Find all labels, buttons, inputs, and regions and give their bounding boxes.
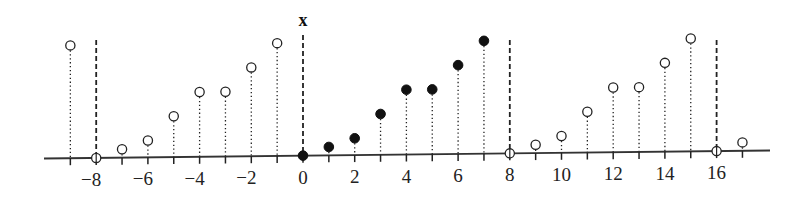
tick-label--4: −4 [184, 168, 205, 189]
tick-label-4: 4 [402, 166, 412, 187]
stem-plot: −8−6−4−20246810121416 x [0, 0, 810, 199]
stem-lines [70, 44, 742, 159]
tick-label-16: 16 [707, 162, 726, 183]
hollow-marker--1 [273, 39, 282, 48]
tick-label-12: 12 [604, 163, 623, 184]
tick-label--2: −2 [236, 167, 256, 188]
filled-marker-2 [350, 133, 360, 143]
hollow-marker-11 [583, 107, 592, 116]
filled-marker-3 [376, 109, 386, 119]
hollow-marker--3 [221, 87, 230, 96]
stem-markers [66, 34, 747, 163]
tick-label-14: 14 [655, 163, 675, 184]
tick-label-8: 8 [505, 164, 515, 185]
hollow-marker-17 [738, 138, 747, 147]
hollow-marker-13 [634, 83, 643, 92]
hollow-marker-9 [531, 140, 540, 149]
tick-label--6: −6 [133, 168, 153, 189]
hollow-marker-14 [660, 58, 669, 67]
signal-title: x [299, 10, 308, 30]
hollow-marker-15 [686, 34, 695, 43]
hollow-marker-10 [557, 131, 566, 140]
tick-label-6: 6 [453, 165, 463, 186]
filled-marker-7 [479, 36, 489, 46]
period-marker-lines [96, 35, 716, 158]
filled-marker-0 [298, 151, 308, 161]
filled-marker-1 [324, 142, 334, 152]
tick-label--8: −8 [81, 169, 101, 190]
hollow-marker--9 [66, 41, 75, 50]
axis-ticks [70, 151, 742, 165]
tick-label-10: 10 [552, 164, 571, 185]
axis-tick-labels: −8−6−4−20246810121416 [81, 162, 726, 190]
tick-label-0: 0 [298, 167, 308, 188]
tick-label-2: 2 [350, 166, 360, 187]
hollow-marker-12 [609, 83, 618, 92]
hollow-marker--6 [143, 136, 152, 145]
filled-marker-4 [402, 85, 412, 95]
hollow-marker--5 [169, 112, 178, 121]
filled-marker-5 [427, 85, 437, 95]
hollow-marker--2 [247, 63, 256, 72]
hollow-marker--4 [195, 87, 204, 96]
hollow-marker--7 [117, 145, 126, 154]
filled-marker-6 [453, 60, 463, 70]
